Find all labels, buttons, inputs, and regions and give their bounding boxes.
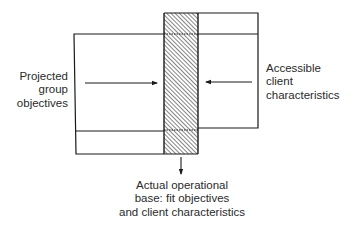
left-label-line-2: group <box>17 83 68 96</box>
left-label-line-3: objectives <box>17 97 68 110</box>
overlap-column <box>164 13 198 154</box>
right-characteristics-box <box>198 13 258 128</box>
left-label-line-1: Projected <box>17 70 68 83</box>
bottom-label-line-2: base: fit objectives <box>82 192 282 205</box>
right-label-line-2: client <box>266 75 340 88</box>
actual-operational-base-label: Actual operational base: fit objectives … <box>82 179 282 219</box>
left-objectives-box <box>74 34 164 154</box>
bottom-label-line-3: and client characteristics <box>82 206 282 219</box>
accessible-client-characteristics-label: Accessible client characteristics <box>266 62 340 102</box>
right-label-line-3: characteristics <box>266 89 340 102</box>
projected-group-objectives-label: Projected group objectives <box>17 70 68 110</box>
right-label-line-1: Accessible <box>266 62 340 75</box>
bottom-label-line-1: Actual operational <box>82 179 282 192</box>
